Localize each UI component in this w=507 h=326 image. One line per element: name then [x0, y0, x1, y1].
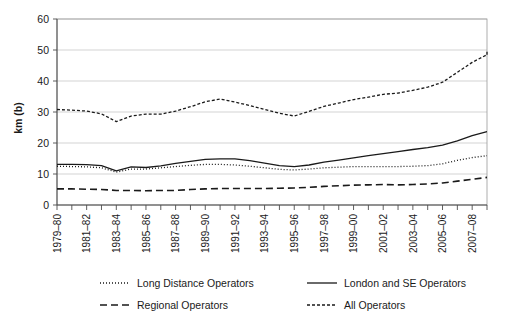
data-series-group [57, 50, 487, 191]
series-line-1 [57, 132, 487, 171]
legend-label: All Operators [344, 299, 405, 311]
series-line-2 [57, 177, 487, 190]
line-chart: 0102030405060 1979–801981–821983–841985–… [0, 0, 507, 326]
x-tick-label: 2007–08 [467, 214, 478, 253]
x-tick-label: 1989–90 [200, 214, 211, 253]
y-tick-label: 40 [37, 75, 49, 87]
x-tick-label: 1999–00 [348, 214, 359, 253]
y-tick-label: 10 [37, 168, 49, 180]
y-tick-label: 20 [37, 137, 49, 149]
x-tick-label: 2005–06 [437, 214, 448, 253]
x-tick-label: 1993–94 [259, 214, 270, 253]
y-tick-label: 30 [37, 106, 49, 118]
chart-legend: Long Distance OperatorsLondon and SE Ope… [100, 277, 466, 311]
x-tick-label: 1979–80 [52, 214, 63, 253]
x-tick-label: 1991–92 [230, 214, 241, 253]
y-axis-title: km (b) [12, 102, 24, 134]
y-tick-label: 0 [43, 199, 49, 211]
legend-label: Regional Operators [137, 299, 228, 311]
x-tick-label: 1995–96 [289, 214, 300, 253]
y-axis-group: 0102030405060 [37, 13, 57, 211]
y-axis-title-group: km (b) [12, 102, 24, 134]
x-tick-label: 1997–98 [319, 214, 330, 253]
x-tick-label: 2001–02 [378, 214, 389, 253]
series-line-3 [57, 55, 487, 122]
x-tick-label: 1983–84 [111, 214, 122, 253]
x-tick-label: 1981–82 [81, 214, 92, 253]
y-tick-label: 60 [37, 13, 49, 25]
x-tick-label: 2003–04 [408, 214, 419, 253]
x-tick-label: 1985–86 [141, 214, 152, 253]
x-tick-label: 1987–88 [170, 214, 181, 253]
legend-label: London and SE Operators [344, 277, 466, 289]
legend-label: Long Distance Operators [137, 277, 254, 289]
x-axis-group: 1979–801981–821983–841985–861987–881989–… [52, 205, 487, 253]
gridlines-group [57, 19, 487, 174]
y-tick-label: 50 [37, 44, 49, 56]
chart-figure: 0102030405060 1979–801981–821983–841985–… [0, 0, 507, 326]
